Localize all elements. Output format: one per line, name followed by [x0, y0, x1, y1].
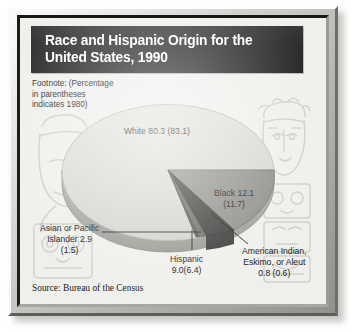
footnote-line-3: indicates 1980) — [32, 100, 113, 111]
footnote: Footnote: (Percentage in parentheses ind… — [32, 79, 113, 111]
infographic-root: Race and Hispanic Origin for the United … — [0, 0, 351, 333]
chart-title-line-2: United States, 1990 — [45, 49, 168, 65]
label-asian-pacific-line-3: (1.5) — [40, 245, 99, 256]
label-asian-pacific: Asian or Pacific Islander 2.9 (1.5) — [40, 223, 99, 255]
label-asian-pacific-line-2: Islander 2.9 — [40, 234, 99, 245]
label-american-indian-line-2: Eskimo, or Aleut — [242, 257, 307, 268]
label-black-line-1: Black 12.1 — [214, 188, 254, 199]
label-black-line-2: (11.7) — [214, 199, 254, 210]
label-hispanic: Hispanic 9.0(6.4) — [170, 254, 203, 276]
chart-title-bar: Race and Hispanic Origin for the United … — [31, 26, 303, 73]
infographic-card: Race and Hispanic Origin for the United … — [20, 18, 326, 304]
label-american-indian-line-1: American Indian, — [242, 246, 307, 257]
source-credit: Source: Bureau of the Census — [32, 283, 143, 293]
label-white-line-1: White 80.3 (83.1) — [124, 126, 190, 137]
footnote-line-1: Footnote: (Percentage — [32, 79, 113, 90]
label-white: White 80.3 (83.1) — [124, 126, 190, 137]
label-american-indian-line-3: 0.8 (0.6) — [242, 268, 307, 279]
chart-title-line-1: Race and Hispanic Origin for the — [45, 32, 252, 48]
label-hispanic-line-2: 9.0(6.4) — [170, 265, 203, 276]
label-hispanic-line-1: Hispanic — [170, 254, 203, 265]
footnote-line-2: in parentheses — [32, 90, 113, 101]
label-black: Black 12.1 (11.7) — [214, 188, 254, 210]
label-american-indian: American Indian, Eskimo, or Aleut 0.8 (0… — [242, 246, 307, 278]
label-asian-pacific-line-1: Asian or Pacific — [40, 223, 99, 234]
